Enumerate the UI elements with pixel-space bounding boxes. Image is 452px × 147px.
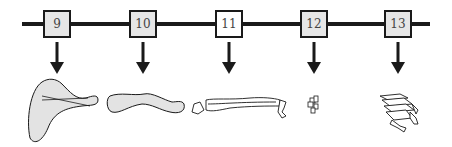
bone-stage-11 <box>192 98 286 118</box>
bone-stage-10 <box>107 94 184 113</box>
bone-stage-9 <box>29 79 99 141</box>
bone-stage-12 <box>308 96 318 113</box>
bone-illustrations <box>0 0 452 147</box>
bone-stage-13 <box>380 94 418 132</box>
